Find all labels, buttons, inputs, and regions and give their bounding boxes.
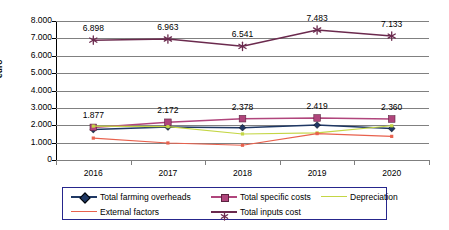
legend-label: External factors	[100, 207, 159, 217]
data-point-marker	[92, 137, 95, 140]
legend-swatch-total-farming-overheads	[71, 191, 97, 202]
x-tick-mark	[205, 161, 206, 165]
y-tick-label: 0	[8, 155, 52, 164]
data-point-marker	[316, 132, 319, 135]
y-tick-label: 2.000	[8, 120, 52, 129]
y-tick-label: 1.000	[8, 138, 52, 147]
y-tick: 1.000	[4, 138, 52, 147]
legend-label: Total specific costs	[240, 192, 311, 202]
legend-item-total-specific-costs[interactable]: Total specific costs	[211, 189, 311, 204]
data-point-marker	[390, 124, 393, 127]
legend-row-1: Total farming overheads Total specific c…	[63, 189, 386, 204]
x-tick-mark	[354, 161, 355, 165]
data-point-marker	[390, 135, 393, 138]
x-tick-label: 2019	[287, 168, 347, 178]
data-point-marker	[239, 124, 246, 131]
legend-marker	[221, 194, 229, 202]
legend-item-external-factors[interactable]: External factors	[71, 204, 159, 219]
y-tick-label: 6.000	[8, 51, 52, 60]
legend-swatch-depreciation	[321, 191, 347, 202]
legend-item-depreciation[interactable]: Depreciation	[321, 189, 398, 204]
legend-row-2: External factors Total inputs cost	[63, 204, 386, 219]
data-point-marker	[388, 116, 395, 123]
x-tick-label: 2016	[63, 168, 123, 178]
legend-marker	[220, 207, 229, 216]
legend-line	[321, 196, 347, 197]
x-tick-label: 2017	[138, 168, 198, 178]
y-tick: 2.000	[4, 120, 52, 129]
legend-label: Total farming overheads	[100, 192, 191, 202]
y-tick-label: 7.000	[8, 33, 52, 42]
legend: Total farming overheads Total specific c…	[62, 187, 387, 220]
line-chart: euro 8.0007.0006.0005.0004.0003.0002.000…	[0, 0, 449, 230]
legend-line	[71, 211, 97, 212]
legend-swatch-total-specific-costs	[211, 191, 237, 202]
y-tick-label: 4.000	[8, 86, 52, 95]
legend-item-total-farming-overheads[interactable]: Total farming overheads	[71, 189, 191, 204]
y-tick: 6.000	[4, 51, 52, 60]
series-lines	[56, 21, 429, 160]
x-tick-mark	[56, 161, 57, 165]
data-point-marker	[239, 115, 246, 122]
data-point-marker	[166, 141, 169, 144]
legend-swatch-external-factors	[71, 206, 97, 217]
data-point-marker	[241, 144, 244, 147]
y-tick-label: 3.000	[8, 103, 52, 112]
legend-marker	[79, 192, 90, 203]
data-point-marker	[314, 122, 321, 129]
x-tick-label: 2018	[213, 168, 273, 178]
x-axis-line	[56, 160, 430, 161]
y-tick: 3.000	[4, 103, 52, 112]
y-tick: 4.000	[4, 86, 52, 95]
legend-swatch-total-inputs-cost	[211, 206, 237, 217]
data-point-marker	[241, 132, 244, 135]
legend-label: Total inputs cost	[240, 207, 301, 217]
x-tick-mark	[131, 161, 132, 165]
x-tick-mark	[280, 161, 281, 165]
y-tick: 8.000	[4, 16, 52, 25]
data-point-marker	[165, 119, 172, 126]
legend-label: Depreciation	[350, 192, 398, 202]
y-tick: 5.000	[4, 68, 52, 77]
x-tick-label: 2020	[362, 168, 422, 178]
data-point-marker	[314, 115, 321, 122]
data-point-marker	[92, 125, 95, 128]
y-tick: 0	[4, 155, 52, 164]
data-point-marker	[166, 125, 169, 128]
y-tick-label: 8.000	[8, 16, 52, 25]
x-tick-mark	[429, 161, 430, 165]
y-tick: 7.000	[4, 33, 52, 42]
y-tick-label: 5.000	[8, 68, 52, 77]
legend-item-total-inputs-cost[interactable]: Total inputs cost	[211, 204, 301, 219]
